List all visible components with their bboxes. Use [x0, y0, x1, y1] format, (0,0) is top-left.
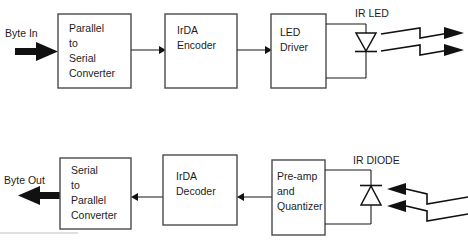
ir-diode-label: IR DIODE [353, 154, 400, 166]
ir-led-symbol [355, 33, 377, 52]
block-parallel-to-serial-line-4: Converter [69, 67, 116, 79]
block-irda-decoder-line-2: Decoder [176, 185, 216, 197]
block-irda-decoder-line-1: IrDA [176, 170, 197, 182]
block-led-driver-line-2: Driver [280, 41, 309, 53]
block-preamp-quantizer-line-3: Quantizer [277, 200, 323, 212]
ir-led-label: IR LED [355, 7, 389, 19]
block-irda-encoder-line-1: IrDA [177, 24, 198, 36]
byte-out-arrow [18, 186, 60, 205]
byte-in-arrow [15, 42, 58, 61]
block-preamp-quantizer-line-2: and [277, 185, 295, 197]
block-parallel-to-serial-line-1: Parallel [69, 22, 104, 34]
block-irda-encoder-line-2: Encoder [177, 39, 217, 51]
block-parallel-to-serial-line-2: to [69, 37, 78, 49]
byte-out-label: Byte Out [4, 174, 45, 186]
wire-p2s-to-encoder [131, 46, 166, 54]
block-led-driver-line-1: LED [280, 26, 301, 38]
preamp-loop-wiring [325, 170, 371, 224]
ir-diode-beam-1 [387, 183, 468, 204]
wire-decoder-to-s2p [131, 193, 163, 201]
wire-encoder-to-led-driver [237, 46, 272, 54]
diagram-canvas: Byte In Parallel to Serial Converter IrD… [0, 0, 468, 240]
block-serial-to-parallel-line-3: Parallel [71, 194, 106, 206]
ir-diode-symbol [360, 186, 382, 206]
block-serial-to-parallel-line-1: Serial [71, 164, 98, 176]
block-preamp-quantizer-line-1: Pre-amp [277, 170, 317, 182]
block-parallel-to-serial-line-3: Serial [69, 52, 96, 64]
block-diagram: Byte In Parallel to Serial Converter IrD… [0, 0, 468, 240]
byte-in-label: Byte In [5, 27, 38, 39]
ir-led-beam-1 [381, 27, 464, 39]
block-serial-to-parallel-line-4: Converter [71, 209, 118, 221]
block-irda-encoder [165, 14, 237, 88]
wire-preamp-to-decoder [237, 193, 272, 201]
block-serial-to-parallel-line-2: to [71, 179, 80, 191]
ir-led-beam-2 [381, 44, 464, 56]
